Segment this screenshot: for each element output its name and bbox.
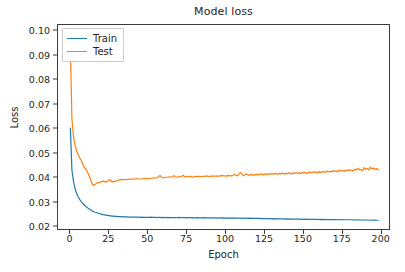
y-tick-label: 0.02	[4, 221, 50, 232]
y-tick-label: 0.06	[4, 123, 50, 134]
y-tick-label: 0.05	[4, 147, 50, 158]
y-axis-tick-labels: 0.020.030.040.050.060.070.080.090.10	[0, 24, 50, 230]
y-tick-label: 0.03	[4, 196, 50, 207]
x-tick-mark	[225, 230, 226, 234]
x-tick-label: 50	[141, 233, 153, 244]
chart-title: Model loss	[57, 5, 390, 18]
y-tick-mark	[53, 79, 57, 80]
x-tick-label: 125	[255, 233, 273, 244]
x-tick-mark	[147, 230, 148, 234]
x-tick-mark	[264, 230, 265, 234]
x-tick-mark	[186, 230, 187, 234]
x-tick-mark	[69, 230, 70, 234]
x-tick-mark	[108, 230, 109, 234]
chart-figure: Model loss Loss 0.020.030.040.050.060.07…	[0, 0, 405, 272]
legend-swatch-train	[67, 38, 87, 39]
series-line-train	[70, 128, 378, 220]
x-tick-mark	[303, 230, 304, 234]
x-tick-mark	[381, 230, 382, 234]
y-tick-label: 0.10	[4, 25, 50, 36]
x-tick-label: 150	[294, 233, 312, 244]
chart-legend: Train Test	[62, 28, 124, 62]
y-tick-mark	[53, 128, 57, 129]
series-line-test	[70, 48, 378, 185]
y-tick-label: 0.04	[4, 172, 50, 183]
y-tick-label: 0.07	[4, 98, 50, 109]
y-tick-mark	[53, 152, 57, 153]
y-tick-mark	[53, 177, 57, 178]
y-tick-label: 0.08	[4, 74, 50, 85]
legend-label-train: Train	[93, 33, 117, 44]
x-tick-label: 175	[333, 233, 351, 244]
y-tick-mark	[53, 30, 57, 31]
y-tick-mark	[53, 201, 57, 202]
x-tick-label: 75	[180, 233, 192, 244]
y-tick-mark	[53, 103, 57, 104]
x-axis-tick-labels: 0255075100125150175200	[57, 233, 390, 249]
legend-item-train[interactable]: Train	[67, 32, 117, 45]
y-tick-label: 0.09	[4, 49, 50, 60]
x-tick-label: 25	[102, 233, 114, 244]
legend-label-test: Test	[93, 46, 113, 57]
x-axis-label: Epoch	[57, 249, 390, 260]
x-tick-mark	[342, 230, 343, 234]
y-tick-mark	[53, 54, 57, 55]
legend-item-test[interactable]: Test	[67, 45, 117, 58]
legend-swatch-test	[67, 51, 87, 52]
y-tick-mark	[53, 226, 57, 227]
x-tick-label: 0	[66, 233, 72, 244]
x-tick-label: 100	[216, 233, 234, 244]
x-tick-label: 200	[372, 233, 390, 244]
